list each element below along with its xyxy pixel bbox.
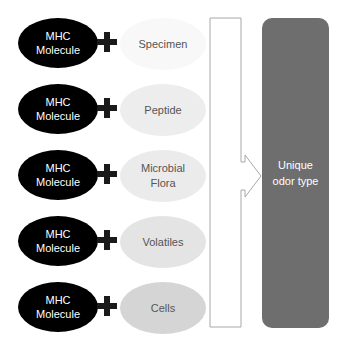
factor-ellipse-peptide: Peptide <box>120 84 206 136</box>
result-label-line2: odor type <box>273 173 319 189</box>
result-box-unique-odor-type: Unique odor type <box>262 18 329 328</box>
plus-icon <box>99 164 115 180</box>
combination-row-4: MHC Molecule Volatiles <box>0 216 210 266</box>
plus-icon <box>99 98 115 114</box>
plus-icon <box>99 296 115 312</box>
mhc-label-line1: MHC <box>45 227 70 241</box>
factor-label-line1: Specimen <box>139 37 188 52</box>
factor-label-line1: Microbial <box>141 161 185 176</box>
mhc-molecule-ellipse: MHC Molecule <box>18 282 98 332</box>
factor-label-line1: Volatiles <box>143 235 184 250</box>
factor-label-line1: Cells <box>151 301 175 316</box>
factor-label-line1: Peptide <box>144 103 181 118</box>
mhc-label-line1: MHC <box>45 161 70 175</box>
plus-icon <box>99 230 115 246</box>
mhc-molecule-ellipse: MHC Molecule <box>18 216 98 266</box>
combination-row-5: MHC Molecule Cells <box>0 282 210 332</box>
combination-row-1: MHC Molecule Specimen <box>0 18 210 68</box>
right-arrow-icon <box>210 18 261 327</box>
mhc-label-line2: Molecule <box>36 241 80 255</box>
mhc-label-line2: Molecule <box>36 175 80 189</box>
mhc-molecule-ellipse: MHC Molecule <box>18 84 98 134</box>
mhc-label-line1: MHC <box>45 95 70 109</box>
mhc-label-line1: MHC <box>45 29 70 43</box>
mhc-label-line2: Molecule <box>36 307 80 321</box>
mhc-label-line2: Molecule <box>36 43 80 57</box>
combination-row-2: MHC Molecule Peptide <box>0 84 210 134</box>
factor-ellipse-specimen: Specimen <box>120 18 206 70</box>
factor-ellipse-microbial-flora: Microbial Flora <box>120 150 206 202</box>
factor-ellipse-cells: Cells <box>120 282 206 334</box>
factor-ellipse-volatiles: Volatiles <box>120 216 206 268</box>
mhc-label-line1: MHC <box>45 293 70 307</box>
combination-row-3: MHC Molecule Microbial Flora <box>0 150 210 200</box>
result-label-line1: Unique <box>278 157 313 173</box>
mhc-molecule-ellipse: MHC Molecule <box>18 18 98 68</box>
factor-label-line2: Flora <box>150 176 175 191</box>
mhc-molecule-ellipse: MHC Molecule <box>18 150 98 200</box>
plus-icon <box>99 32 115 48</box>
mhc-label-line2: Molecule <box>36 109 80 123</box>
